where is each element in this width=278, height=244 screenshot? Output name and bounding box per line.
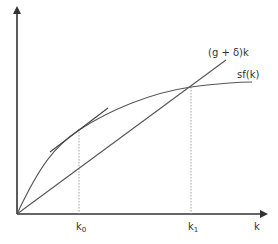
solow-diagram: (g + δ)k sf(k) k0 k1 k [0,0,278,244]
production-curve [17,82,252,214]
x-axis-label: k [254,221,260,232]
break-even-label: (g + δ)k [208,47,249,58]
k0-label: k0 [76,221,86,234]
k1-label: k1 [188,221,198,234]
production-label: sf(k) [237,69,259,80]
break-even-line [17,60,226,214]
